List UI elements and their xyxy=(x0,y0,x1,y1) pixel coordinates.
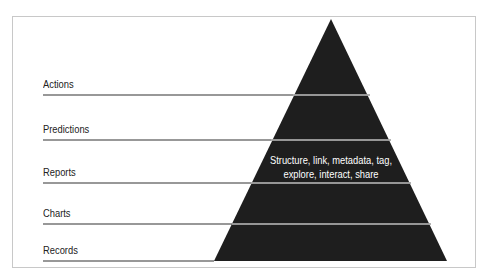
level-label-charts: Charts xyxy=(43,207,71,219)
pyramid-text-line1: Structure, link, metadata, tag, xyxy=(246,153,416,167)
pyramid-diagram xyxy=(0,0,490,280)
level-label-records: Records xyxy=(43,244,78,256)
level-label-reports: Reports xyxy=(43,166,76,178)
pyramid-text: Structure, link, metadata, tag, explore,… xyxy=(246,153,416,181)
level-label-actions: Actions xyxy=(43,78,74,90)
pyramid-text-line2: explore, interact, share xyxy=(246,167,416,181)
level-label-predictions: Predictions xyxy=(43,123,89,135)
